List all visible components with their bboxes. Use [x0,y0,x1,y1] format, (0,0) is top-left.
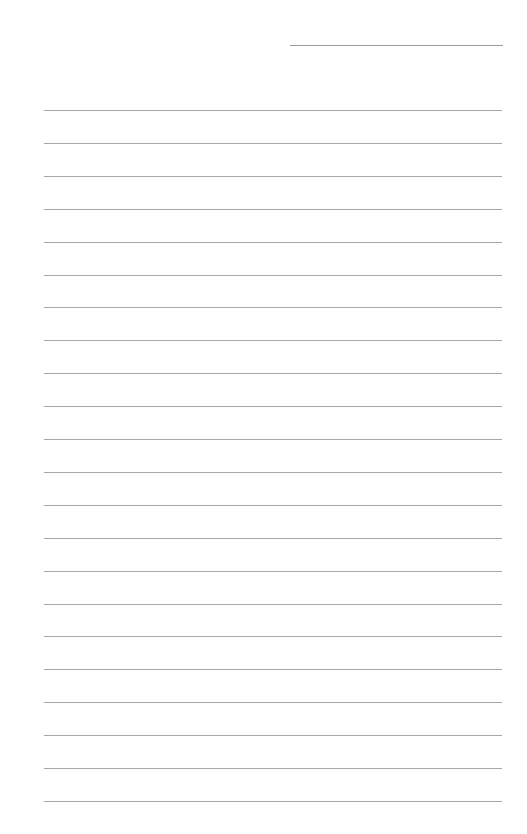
ruled-line [44,406,502,407]
ruled-line [44,768,502,769]
ruled-line [44,505,502,506]
ruled-line [44,636,502,637]
ruled-line [44,209,502,210]
ruled-line [44,702,502,703]
ruled-line [44,176,502,177]
ruled-line [44,242,502,243]
ruled-line [44,669,502,670]
ruled-line [44,571,502,572]
header-date-line [290,45,503,46]
ruled-line [44,538,502,539]
ruled-line [44,373,502,374]
ruled-line [44,143,502,144]
ruled-line [44,439,502,440]
ruled-line [44,735,502,736]
ruled-line [44,307,502,308]
ruled-line [44,604,502,605]
ruled-line [44,110,502,111]
ruled-line [44,801,502,802]
lined-paper-page [0,0,527,834]
ruled-line [44,275,502,276]
ruled-line [44,340,502,341]
ruled-line [44,472,502,473]
